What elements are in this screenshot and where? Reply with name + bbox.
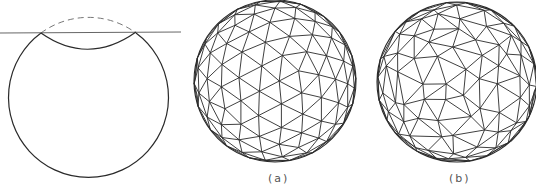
mesh-edge [398, 72, 404, 105]
mesh-edge [302, 93, 322, 98]
geodesic-sphere-b [377, 2, 536, 162]
mesh-edge [270, 22, 290, 36]
mesh-edge [279, 128, 281, 145]
mesh-edge [491, 10, 503, 18]
mesh-edge [222, 52, 242, 65]
mesh-edge [221, 125, 222, 138]
mesh-edge [484, 10, 491, 11]
mesh-edge [319, 75, 322, 98]
mesh-edge [399, 122, 404, 134]
mesh-edge [480, 108, 499, 112]
mesh-edge [259, 136, 261, 151]
mesh-edge [442, 135, 453, 136]
mesh-edge [254, 8, 275, 14]
mesh-edge [321, 98, 338, 103]
mesh-edge [428, 137, 442, 151]
mesh-edge [414, 42, 429, 58]
mesh-edge [348, 66, 353, 84]
mesh-edge [303, 114, 322, 121]
mesh-edge [218, 33, 227, 44]
mesh-edge [479, 66, 498, 79]
mesh-edge [281, 93, 301, 104]
mesh-edge [460, 19, 476, 40]
mesh-edge [424, 99, 438, 120]
mesh-edge [446, 84, 447, 100]
mesh-edge [225, 101, 241, 109]
mesh-edge [477, 147, 496, 148]
mesh-edge [321, 121, 335, 124]
mesh-edge [449, 157, 466, 158]
mesh-edge [466, 69, 479, 78]
mesh-edge [479, 55, 482, 78]
mesh-edge [497, 66, 498, 84]
mesh-edge [262, 144, 279, 152]
mesh-edge [307, 52, 327, 56]
mesh-edge [395, 31, 400, 34]
mesh-edge [279, 56, 282, 81]
mesh-edge [207, 79, 221, 87]
mesh-edge [242, 52, 262, 66]
mesh-edge [265, 22, 270, 42]
mesh-edge [282, 52, 306, 56]
mesh-edge [499, 113, 516, 123]
mesh-edge [348, 84, 355, 88]
mesh-edge [434, 10, 438, 14]
mesh-edge [414, 56, 437, 58]
mesh-edge [299, 71, 302, 93]
mesh-edge [344, 61, 348, 84]
mesh-edge [336, 79, 339, 103]
mesh-edge [221, 124, 241, 125]
panel-label-a: (a) [268, 172, 289, 185]
mesh-edge [279, 71, 298, 81]
sphere-outline [9, 33, 169, 177]
mesh-edge [520, 85, 529, 98]
mesh-edge [398, 53, 415, 58]
mesh-edge [281, 128, 301, 133]
mesh-edge [398, 58, 415, 71]
mesh-edge [482, 45, 499, 56]
mesh-edge [336, 61, 344, 79]
mesh-edge [396, 72, 398, 103]
mesh-edge [340, 32, 352, 55]
mesh-edge [319, 121, 322, 138]
mesh-edge [241, 91, 260, 100]
mesh-edge [259, 91, 260, 115]
mesh-edge [398, 36, 415, 53]
mesh-edge [476, 40, 483, 56]
mesh-edge [446, 84, 463, 95]
mesh-edge [460, 10, 484, 18]
mesh-edge [423, 84, 424, 99]
mesh-edge [387, 112, 388, 120]
mesh-edge [207, 65, 222, 79]
mesh-edge [259, 66, 261, 91]
mesh-edge [302, 114, 303, 133]
removed-cap-dashed-arc [41, 17, 136, 33]
mesh-edge [299, 133, 302, 148]
mesh-edge [507, 54, 521, 55]
mesh-edge [327, 38, 332, 56]
mesh-edge [319, 138, 327, 141]
mesh-edge [296, 4, 301, 7]
mesh-edge [344, 45, 345, 61]
mesh-edge [453, 135, 477, 147]
mesh-edge [479, 79, 497, 84]
mesh-edge [262, 66, 279, 81]
mesh-edge [520, 98, 529, 106]
mesh-edge [485, 113, 500, 131]
mesh-edge [255, 5, 275, 8]
mesh-edge [463, 69, 466, 95]
mesh-edge [241, 116, 259, 125]
mesh-edge [479, 79, 480, 109]
mesh-edge [199, 79, 207, 93]
mesh-edge [404, 122, 410, 136]
mesh-edge [302, 93, 303, 114]
mesh-edge [484, 10, 486, 26]
mesh-edge [282, 56, 298, 71]
mesh-edge [438, 56, 447, 84]
mesh-edge [279, 133, 302, 145]
mesh-edge [235, 14, 254, 15]
mesh-edge [476, 26, 487, 39]
mesh-edge [438, 117, 471, 121]
mesh-edge [471, 108, 480, 116]
mesh-edge [460, 19, 487, 27]
